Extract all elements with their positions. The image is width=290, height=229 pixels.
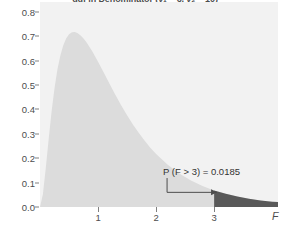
- f-distribution-chart: ddf in Denominator (ν₁ = 6, ν₂ = 10) 0.0…: [0, 0, 290, 229]
- x-axis-title: F: [272, 210, 278, 222]
- x-tick-mark: [214, 207, 215, 212]
- x-tick-label: 2: [153, 212, 158, 223]
- x-tick-label: 3: [211, 212, 216, 223]
- x-tick-mark: [156, 207, 157, 212]
- x-tick-mark: [98, 207, 99, 212]
- x-axis-labels: 123: [0, 0, 290, 229]
- tail-probability-annotation: P (F > 3) = 0.0185: [163, 166, 240, 177]
- x-tick-label: 1: [95, 212, 100, 223]
